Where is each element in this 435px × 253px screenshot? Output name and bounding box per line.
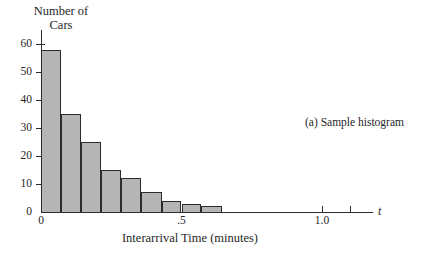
figure-caption: (a) Sample histogram — [305, 116, 404, 128]
x-axis-title: Interarrival Time (minutes) — [55, 231, 325, 246]
histogram-bar — [101, 170, 121, 212]
y-tick-label: 50 — [6, 65, 32, 77]
y-tick-label: 10 — [6, 177, 32, 189]
y-tick-label: 40 — [6, 93, 32, 105]
histogram-bar — [182, 204, 202, 212]
x-tick-label: 1.0 — [305, 214, 339, 226]
x-tick-mark — [322, 206, 323, 213]
histogram-bar — [162, 201, 182, 212]
x-tick-mark — [350, 206, 351, 213]
x-axis-line — [41, 212, 373, 213]
x-axis-variable-label: t — [378, 204, 381, 219]
histogram-figure: Number of Cars 0102030405060 0.51.0 t In… — [0, 0, 435, 253]
y-tick-label: 60 — [6, 37, 32, 49]
histogram-bar — [121, 178, 141, 212]
y-tick-label: 30 — [6, 121, 32, 133]
histogram-bar — [41, 50, 61, 212]
x-tick-label: 0 — [24, 214, 58, 226]
x-tick-label: .5 — [165, 214, 199, 226]
histogram-bar — [201, 206, 221, 212]
y-tick-label: 20 — [6, 149, 32, 161]
y-tick-mark — [36, 44, 45, 45]
histogram-bar — [141, 192, 161, 212]
histogram-bar — [61, 114, 81, 212]
histogram-bar — [81, 142, 101, 212]
